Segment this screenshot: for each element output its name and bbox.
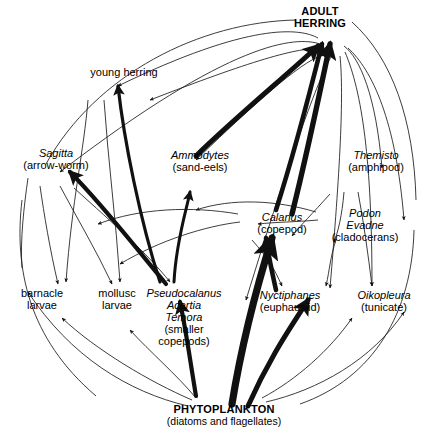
node-calanus[interactable]: Calanus (copepod) xyxy=(242,212,322,236)
young-herring-label: young herring xyxy=(72,67,176,79)
node-nyctiphanes[interactable]: Nyctiphanes (euphausiid) xyxy=(244,290,336,314)
node-barnacle-larvae[interactable]: barnacle larvae xyxy=(6,288,78,312)
food-web-diagram: ADULT HERRING young herring Sagitta (arr… xyxy=(0,0,428,442)
arrow-phytoplankton-to-oikopleura xyxy=(262,318,352,398)
node-adult-herring[interactable]: ADULT HERRING xyxy=(278,6,362,30)
arrow-themisto-outer-to-adult-herring xyxy=(348,48,404,220)
temora-scientific-name: Temora xyxy=(132,312,236,324)
pseudocalanus-common-line1: (smaller xyxy=(132,324,236,336)
thick-arrow-pseudocalanus-to-sagitta xyxy=(70,172,166,284)
acartia-scientific-name: Acartia xyxy=(132,300,236,312)
node-ammodytes[interactable]: Ammodytes (sand-eels) xyxy=(150,150,250,174)
arrow-cross-curve-left xyxy=(98,209,238,224)
barnacle-line2: larvae xyxy=(6,300,78,312)
frame-curve-bottom-right xyxy=(300,230,414,404)
node-young-herring[interactable]: young herring xyxy=(72,67,176,79)
adult-herring-line2: HERRING xyxy=(278,18,362,30)
sagitta-common-name: (arrow-worm) xyxy=(4,160,108,172)
ammodytes-common-name: (sand-eels) xyxy=(150,162,250,174)
arrow-mollusc-to-young-herring xyxy=(104,100,120,282)
phytoplankton-description: (diatoms and flagellates) xyxy=(134,416,314,427)
node-podon-evadne[interactable]: Podon Evadne (cladocerans) xyxy=(318,208,412,244)
podon-evadne-common-name: (cladocerans) xyxy=(318,232,412,244)
frame-curve-left-edge xyxy=(21,178,28,268)
evadne-scientific-name: Evadne xyxy=(318,220,412,232)
calanus-common-name: (copepod) xyxy=(242,224,322,236)
thick-arrow-phytoplankton-to-calanus xyxy=(232,238,272,404)
pseudocalanus-common-line2: copepods) xyxy=(132,336,236,348)
arrow-phytoplankton-outer-right xyxy=(266,312,404,402)
thick-arrow-pseudocalanus-to-ammodytes xyxy=(174,192,190,282)
node-themisto[interactable]: Themisto (amphipod) xyxy=(330,150,422,174)
themisto-common-name: (amphipod) xyxy=(330,162,422,174)
node-phytoplankton[interactable]: PHYTOPLANKTON (diatoms and flagellates) xyxy=(134,404,314,427)
arrow-mollusc-to-sagitta xyxy=(60,186,112,284)
node-sagitta[interactable]: Sagitta (arrow-worm) xyxy=(4,148,108,172)
arrow-barnacle-to-sagitta xyxy=(40,186,58,284)
thick-arrow-ammodytes-to-adult-herring xyxy=(196,46,318,156)
oikopleura-common-name: (tunicate) xyxy=(342,302,426,314)
node-oikopleura[interactable]: Oikopleura (tunicate) xyxy=(342,290,426,314)
thick-arrow-phytoplankton-to-nyctiphanes xyxy=(248,300,308,406)
node-pseudocalanus-group[interactable]: Pseudocalanus Acartia Temora (smaller co… xyxy=(132,288,236,347)
nyctiphanes-common-name: (euphausiid) xyxy=(244,302,336,314)
